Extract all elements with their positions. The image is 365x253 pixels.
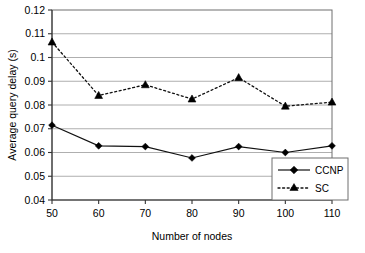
chart-legend: CCNP SC	[272, 158, 348, 200]
x-axis-title: Number of nodes	[152, 230, 233, 242]
y-tick-label: 0.05	[25, 170, 46, 182]
y-tick-label: 0.06	[25, 146, 46, 158]
y-tick-label: 0.08	[25, 99, 46, 111]
query-delay-line-chart: 0.040.050.060.070.080.090.10.110.12 5060…	[0, 0, 365, 253]
y-tick-label: 0.09	[25, 75, 46, 87]
chart-container: 0.040.050.060.070.080.090.10.110.12 5060…	[0, 0, 365, 253]
y-axis-ticks: 0.040.050.060.070.080.090.10.110.12	[25, 4, 52, 206]
legend-label-ccnp: CCNP	[315, 165, 344, 176]
y-tick-label: 0.07	[25, 122, 46, 134]
x-axis-ticks: 5060708090100110	[46, 200, 340, 219]
y-tick-label: 0.12	[25, 4, 46, 16]
x-tick-label: 90	[233, 207, 245, 219]
x-tick-label: 100	[277, 207, 295, 219]
y-tick-label: 0.04	[25, 194, 46, 206]
x-tick-label: 50	[46, 207, 58, 219]
y-tick-label: 0.1	[30, 51, 45, 63]
x-tick-label: 60	[93, 207, 105, 219]
x-tick-label: 80	[186, 207, 198, 219]
x-tick-label: 70	[139, 207, 151, 219]
y-axis-title: Average query delay (s)	[6, 49, 18, 160]
legend-label-sc: SC	[315, 183, 329, 194]
y-tick-label: 0.11	[25, 27, 45, 39]
x-tick-label: 110	[324, 207, 341, 219]
